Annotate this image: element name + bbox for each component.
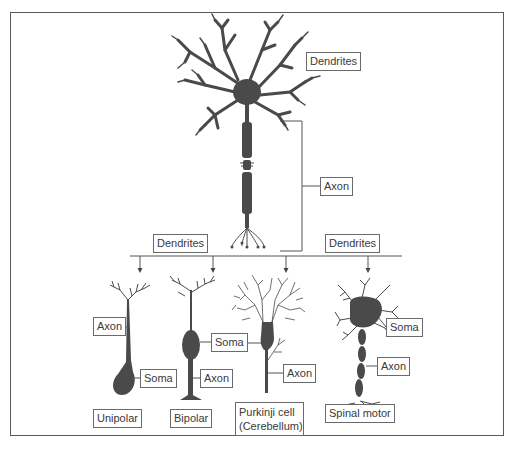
spinal-soma-label: Soma xyxy=(386,318,423,337)
spinal-motor-name-label: Spinal motor xyxy=(325,404,395,423)
spinal-axon-label: Axon xyxy=(377,357,410,376)
arrow-down-icon xyxy=(284,268,289,273)
spinal-motor-neuron xyxy=(335,278,398,410)
bipolar-name-label: Bipolar xyxy=(170,409,212,428)
purkinji-name-label: Purkinji cell (Cerebellum) xyxy=(235,402,304,436)
unipolar-soma-label: Soma xyxy=(140,369,177,388)
axon-bracket xyxy=(280,121,302,251)
arrow-down-icon xyxy=(138,268,143,273)
purkinji-axon-label: Axon xyxy=(283,364,316,383)
purkinji-name-line2: (Cerebellum) xyxy=(239,419,300,433)
arrow-down-icon xyxy=(366,268,371,273)
bipolar-axon-label: Axon xyxy=(200,369,233,388)
unipolar-axon-label: Axon xyxy=(93,317,126,336)
unipolar-name-label: Unipolar xyxy=(93,409,142,428)
arrow-down-icon xyxy=(211,268,216,273)
neuron-diagram-art xyxy=(0,0,513,451)
right-dendrites-label: Dendrites xyxy=(325,234,380,253)
main-dendrites-label: Dendrites xyxy=(306,52,361,71)
bipolar-soma-label: Soma xyxy=(211,333,248,352)
purkinji-name-line1: Purkinji cell xyxy=(239,405,300,419)
main-axon-label: Axon xyxy=(320,177,353,196)
left-dendrites-label: Dendrites xyxy=(153,234,208,253)
